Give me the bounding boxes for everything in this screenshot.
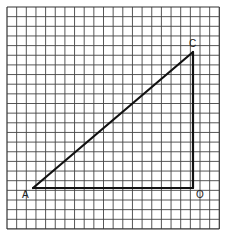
vertex-label-o: O bbox=[196, 189, 204, 200]
triangle-grid-diagram: A O C bbox=[0, 0, 225, 237]
graph-paper-grid bbox=[7, 7, 219, 229]
vertex-label-c: C bbox=[189, 38, 196, 49]
vertex-label-a: A bbox=[22, 189, 29, 200]
